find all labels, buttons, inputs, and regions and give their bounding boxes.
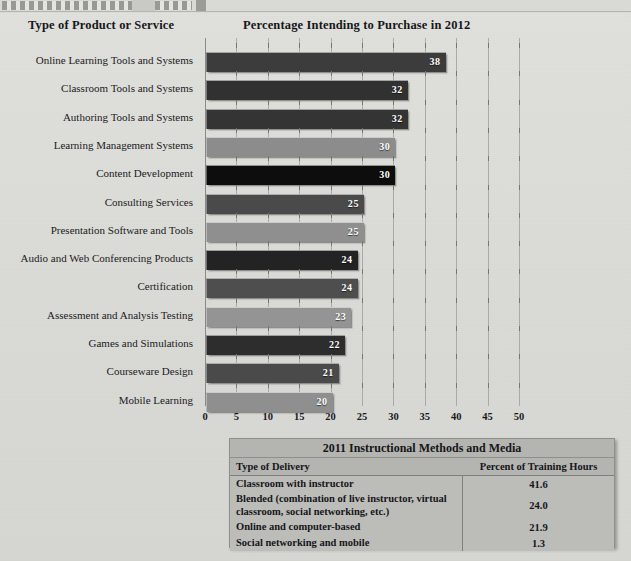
tick-mark xyxy=(331,100,332,105)
tick-mark xyxy=(425,156,426,161)
tick-mark xyxy=(299,128,300,133)
tick-mark xyxy=(236,100,237,105)
tick-mark xyxy=(362,128,363,133)
tick-mark xyxy=(362,354,363,359)
tick-mark xyxy=(488,326,489,331)
tick-mark xyxy=(331,156,332,161)
bar-value-label: 21 xyxy=(323,367,334,378)
tick-mark xyxy=(519,185,520,190)
chart-figure: Type of Product or Service Percentage In… xyxy=(0,13,631,561)
bar: 25 xyxy=(206,222,364,242)
tick-mark xyxy=(331,298,332,303)
tick-mark xyxy=(488,354,489,359)
tick-mark xyxy=(519,298,520,303)
bar: 24 xyxy=(206,278,358,298)
table-body: Classroom with instructor41.6Blended (co… xyxy=(230,476,614,551)
film-block-1 xyxy=(132,0,155,11)
bar-category-label: Presentation Software and Tools xyxy=(51,224,193,236)
tick-mark xyxy=(488,71,489,76)
bar: 32 xyxy=(206,80,408,100)
table-row: Social networking and mobile1.3 xyxy=(230,535,614,551)
x-axis-tick-label: 25 xyxy=(357,411,368,422)
tick-mark xyxy=(362,71,363,76)
bar-value-label: 23 xyxy=(335,311,346,322)
tick-mark xyxy=(519,241,520,246)
bar-value-label: 24 xyxy=(342,254,353,265)
bar-category-label: Authoring Tools and Systems xyxy=(63,111,193,123)
axis-tick-marks xyxy=(205,185,519,190)
table-row: Online and computer-based21.9 xyxy=(230,519,614,535)
chart-title: Percentage Intending to Purchase in 2012 xyxy=(243,18,470,33)
tick-mark xyxy=(393,128,394,133)
tick-mark xyxy=(236,326,237,331)
tick-mark xyxy=(236,213,237,218)
bar-category-label: Online Learning Tools and Systems xyxy=(36,54,193,66)
tick-mark xyxy=(488,213,489,218)
bar: 24 xyxy=(206,250,358,270)
tick-mark xyxy=(393,43,394,48)
axis-tick-marks xyxy=(205,71,519,76)
tick-mark xyxy=(425,269,426,274)
tick-mark xyxy=(331,354,332,359)
film-edge-line xyxy=(0,11,631,12)
tick-mark xyxy=(236,43,237,48)
tick-mark xyxy=(425,43,426,48)
tick-mark xyxy=(425,298,426,303)
tick-mark xyxy=(331,213,332,218)
tick-mark xyxy=(362,298,363,303)
tick-mark xyxy=(299,241,300,246)
tick-mark xyxy=(236,156,237,161)
tick-mark xyxy=(488,43,489,48)
tick-mark xyxy=(519,354,520,359)
tick-mark xyxy=(393,100,394,105)
tick-mark xyxy=(456,128,457,133)
x-axis-tick-label: 15 xyxy=(294,411,305,422)
x-axis-tick-label: 10 xyxy=(263,411,274,422)
tick-mark xyxy=(299,71,300,76)
bar: 21 xyxy=(206,363,339,383)
tick-mark xyxy=(519,128,520,133)
tick-mark xyxy=(393,298,394,303)
tick-mark xyxy=(393,383,394,388)
tick-mark xyxy=(331,269,332,274)
tick-mark xyxy=(362,383,363,388)
tick-mark xyxy=(362,156,363,161)
tick-mark xyxy=(268,383,269,388)
axis-tick-marks xyxy=(205,298,519,303)
axis-tick-marks xyxy=(205,269,519,274)
bar-category-label: Classroom Tools and Systems xyxy=(61,82,193,94)
axis-tick-marks xyxy=(205,100,519,105)
tick-mark xyxy=(456,269,457,274)
tick-mark xyxy=(268,43,269,48)
column-heading-category: Type of Product or Service xyxy=(28,18,174,33)
tick-mark xyxy=(488,185,489,190)
tick-mark xyxy=(519,100,520,105)
bar-value-label: 24 xyxy=(342,282,353,293)
table-title: 2011 Instructional Methods and Media xyxy=(230,439,614,458)
film-perforations xyxy=(2,1,192,10)
axis-tick-marks xyxy=(205,326,519,331)
tick-mark xyxy=(456,43,457,48)
tick-mark xyxy=(456,383,457,388)
tick-mark xyxy=(425,100,426,105)
table-cell-delivery: Social networking and mobile xyxy=(230,535,463,551)
table-header-row: Type of Delivery Percent of Training Hou… xyxy=(230,458,614,476)
tick-mark xyxy=(362,269,363,274)
tick-mark xyxy=(425,383,426,388)
bar: 22 xyxy=(206,335,345,355)
tick-mark xyxy=(393,213,394,218)
tick-mark xyxy=(488,156,489,161)
tick-mark xyxy=(519,269,520,274)
tick-mark xyxy=(268,269,269,274)
tick-mark xyxy=(519,71,520,76)
bar-category-label: Consulting Services xyxy=(105,196,193,208)
tick-mark xyxy=(519,213,520,218)
x-axis-tick-label: 30 xyxy=(388,411,399,422)
tick-mark xyxy=(331,43,332,48)
table-cell-percent: 21.9 xyxy=(463,522,614,533)
tick-mark xyxy=(425,213,426,218)
tick-mark xyxy=(456,326,457,331)
tick-mark xyxy=(456,100,457,105)
tick-mark xyxy=(362,43,363,48)
tick-mark xyxy=(236,354,237,359)
